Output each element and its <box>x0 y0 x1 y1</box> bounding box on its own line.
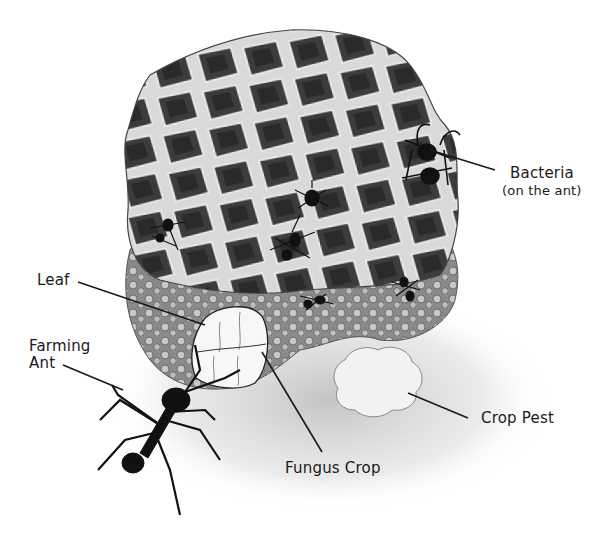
bacteria-label: Bacteria (on the ant) <box>502 165 582 199</box>
crop-pest-illustration <box>334 347 422 417</box>
farming-ant-label-line2: Ant <box>29 355 91 372</box>
bacteria-label-line1: Bacteria <box>502 165 582 182</box>
leaf-label: Leaf <box>37 272 70 289</box>
bacteria-label-line2: (on the ant) <box>502 182 582 199</box>
fungus-crop-label: Fungus Crop <box>285 460 381 477</box>
crop-pest-label: Crop Pest <box>481 410 554 427</box>
farming-ant-label-line1: Farming <box>29 338 91 355</box>
farming-ant-label: Farming Ant <box>29 338 91 372</box>
